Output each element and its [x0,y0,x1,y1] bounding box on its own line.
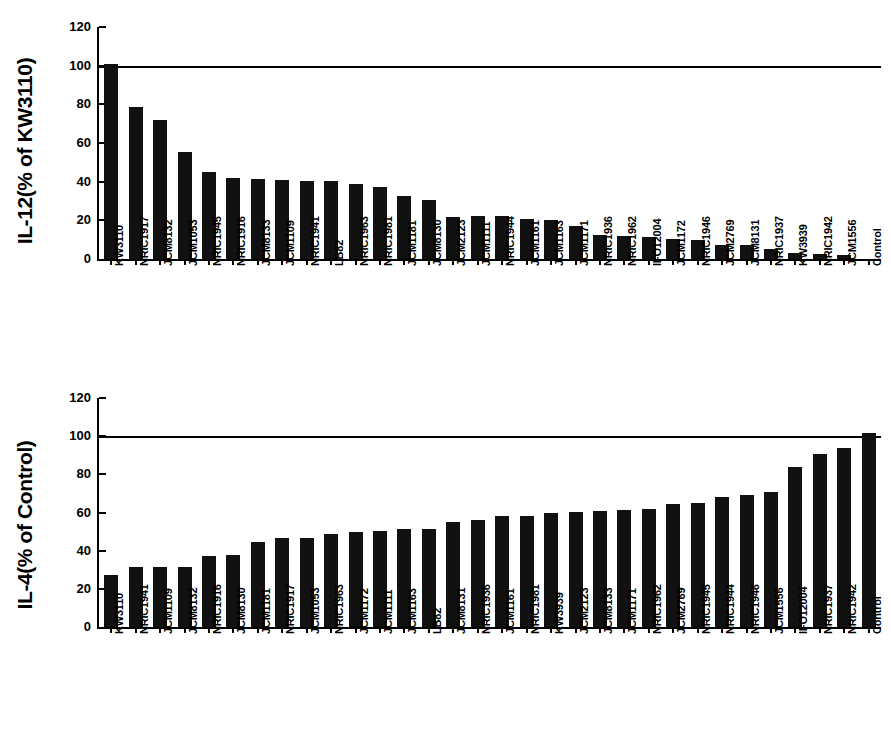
x-axis-label: NRIC1942 [822,216,834,266]
x-tick-mark [648,259,650,265]
x-tick-mark [746,627,748,633]
x-tick-mark [428,259,430,265]
y-tick-mark [99,550,106,552]
x-tick-mark [257,259,259,265]
x-tick-mark [135,627,137,633]
x-axis-label: NRIC1936 [480,584,492,634]
x-tick-mark [135,259,137,265]
x-axis-label: JCM1181 [406,220,418,266]
x-axis-label: JCM1171 [626,588,638,634]
x-tick-mark [819,259,821,265]
x-tick-mark [501,259,503,265]
x-axis-label: NRIC1937 [822,584,834,634]
y-tick-label: 40 [51,175,91,189]
y-tick-label: 60 [51,136,91,150]
x-axis-label: JCM8132 [187,588,199,634]
x-axis-label: JCM1053 [187,220,199,266]
y-tick-mark [99,397,106,399]
x-tick-mark [379,627,381,633]
x-tick-mark [721,259,723,265]
reference-line-100 [99,66,881,68]
y-tick-label: 100 [51,59,91,73]
x-axis-label: NRIC1916 [235,216,247,266]
x-axis-label: JCM1053 [309,588,321,634]
x-axis-label: NRIC1963 [358,216,370,266]
x-axis-label: NRIC1962 [626,216,638,266]
x-tick-mark [697,259,699,265]
x-tick-mark [306,627,308,633]
x-tick-mark [672,259,674,265]
x-tick-mark [868,627,870,633]
x-tick-mark [355,259,357,265]
x-axis-label: JCM1163 [553,220,565,266]
x-tick-mark [672,627,674,633]
x-tick-mark [184,627,186,633]
x-axis-label: JCM1181 [260,588,272,634]
y-tick-mark [99,26,106,28]
reference-line-100 [99,436,881,438]
y-tick-label: 0 [51,252,91,266]
x-axis-label: JCM8131 [749,220,761,266]
x-axis-label: IFO12004 [651,219,663,266]
x-tick-mark [330,259,332,265]
chart-il12: IL-12(% of KW3110) 020406080100120 KW311… [0,0,891,372]
x-axis-label: KW3939 [553,592,565,634]
x-tick-mark [575,259,577,265]
x-tick-mark [306,259,308,265]
x-tick-mark [599,627,601,633]
y-tick-mark [99,512,106,514]
x-tick-mark [550,627,552,633]
x-axis-label: JCM1109 [284,220,296,266]
x-axis-label: JCM8131 [455,588,467,634]
x-axis-label: NRIC1946 [749,584,761,634]
x-tick-mark [819,627,821,633]
x-tick-mark [721,627,723,633]
y-tick-label: 20 [51,582,91,596]
y-tick-label: 40 [51,544,91,558]
x-tick-mark [526,259,528,265]
x-axis-label: JCM2769 [724,220,736,266]
x-axis-label: JCM2123 [578,588,590,634]
x-tick-mark [501,627,503,633]
x-axis-label: NRIC1942 [846,584,858,634]
x-tick-mark [477,627,479,633]
x-axis-label: JCM8133 [260,220,272,266]
x-axis-label: NRIC1981 [529,584,541,634]
x-axis-label: NRIC1936 [602,216,614,266]
y-tick-label: 80 [51,97,91,111]
x-axis-label: JCM8133 [602,588,614,634]
x-axis-label: NRIC1944 [724,584,736,634]
x-tick-mark [208,259,210,265]
y-tick-label: 20 [51,213,91,227]
x-tick-mark [379,259,381,265]
x-tick-mark [526,627,528,633]
x-tick-mark [697,627,699,633]
x-axis-label: JCM1172 [358,588,370,634]
x-axis-label: NRIC1917 [138,216,150,266]
x-tick-mark [550,259,552,265]
x-axis-label: LB82 [431,608,443,634]
x-tick-mark [110,627,112,633]
y-axis-ticks-il4: 020406080100120 [51,398,91,627]
x-axis-label: Control [871,596,883,634]
x-axis-label: NRIC1945 [211,216,223,266]
x-axis-label: JCM8130 [431,220,443,266]
y-tick-label: 60 [51,506,91,520]
x-tick-mark [428,627,430,633]
x-axis-label: NRIC1946 [700,216,712,266]
x-tick-mark [281,627,283,633]
x-axis-label: JCM1109 [162,588,174,634]
x-tick-mark [770,259,772,265]
y-tick-label: 100 [51,429,91,443]
x-tick-mark [330,627,332,633]
x-axis-label: LB82 [333,240,345,266]
x-tick-mark [868,259,870,265]
x-axis-label: JCM1111 [382,590,394,634]
x-tick-mark [208,627,210,633]
x-axis-label: JCM2123 [455,220,467,266]
x-axis-label: KW3939 [797,224,809,266]
y-axis-title-il12: IL-12(% of KW3110) [8,16,42,286]
x-axis-label: Control [871,228,883,266]
x-tick-mark [184,259,186,265]
y-tick-label: 120 [51,20,91,34]
